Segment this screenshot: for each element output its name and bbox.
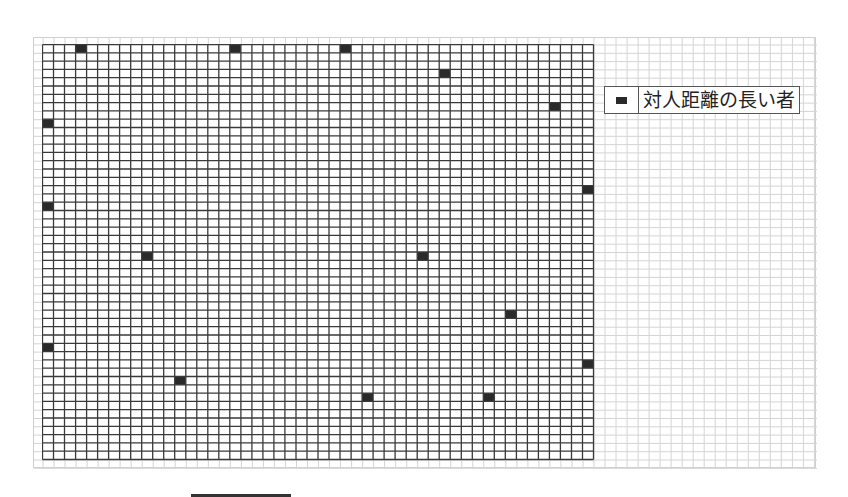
marked-seat-cell bbox=[230, 45, 241, 53]
seating-grid bbox=[42, 44, 595, 465]
legend-swatch-box bbox=[605, 87, 639, 113]
filled-square-icon bbox=[616, 97, 627, 104]
marked-seat-cell bbox=[439, 69, 450, 77]
legend-label: 対人距離の長い者 bbox=[639, 87, 799, 113]
marked-seat-cell bbox=[583, 186, 594, 194]
marked-seat-cell bbox=[43, 119, 54, 127]
marked-seat-cell bbox=[142, 252, 153, 260]
marked-seat-cell bbox=[76, 45, 87, 53]
marked-seat-cell bbox=[549, 103, 560, 111]
seating-grid-lines bbox=[42, 44, 595, 461]
marked-seat-cell bbox=[43, 343, 54, 351]
marked-seat-cell bbox=[362, 393, 373, 401]
marked-seat-cell bbox=[505, 310, 516, 318]
legend: 対人距離の長い者 bbox=[604, 86, 800, 114]
marked-seat-cell bbox=[483, 393, 494, 401]
marked-seat-cell bbox=[417, 252, 428, 260]
marked-seat-cell bbox=[175, 377, 186, 385]
marked-seat-cell bbox=[340, 45, 351, 53]
marked-seat-cell bbox=[583, 360, 594, 368]
marked-seat-cell bbox=[43, 202, 54, 210]
